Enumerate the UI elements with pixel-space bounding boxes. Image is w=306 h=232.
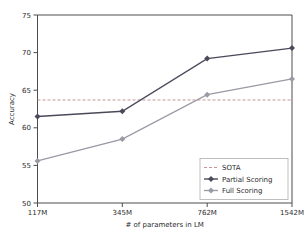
y-tick-label-75: 75 — [22, 12, 31, 20]
legend-label-sota: SOTA — [222, 164, 241, 172]
accuracy-vs-parameters-line-chart: 50 55 60 65 70 75 117M 345M 762M 1542M #… — [0, 0, 306, 232]
y-axis-title: Accuracy — [8, 93, 16, 125]
x-tick-label-117m: 117M — [28, 209, 47, 217]
x-tick-label-762m: 762M — [197, 209, 216, 217]
y-tick-label-60: 60 — [22, 124, 31, 132]
chart-figure: 50 55 60 65 70 75 117M 345M 762M 1542M #… — [0, 0, 306, 232]
legend-label-partial-scoring: Partial Scoring — [222, 176, 273, 184]
y-tick-label-70: 70 — [22, 49, 31, 57]
x-tick-label-345m: 345M — [113, 209, 132, 217]
x-axis-title: # of parameters in LM — [125, 221, 203, 229]
y-tick-label-65: 65 — [22, 87, 31, 95]
y-tick-label-55: 55 — [22, 162, 31, 170]
legend-label-full-scoring: Full Scoring — [222, 187, 262, 195]
x-tick-label-1542m: 1542M — [280, 209, 304, 217]
y-tick-label-50: 50 — [22, 200, 31, 208]
chart-legend: SOTA Partial Scoring Full Scoring — [200, 159, 288, 200]
